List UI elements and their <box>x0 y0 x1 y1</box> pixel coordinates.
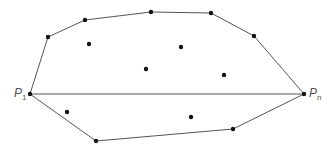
hull-vertex <box>94 139 98 143</box>
hull-vertex <box>28 92 32 96</box>
label-p1-text: P <box>14 86 22 100</box>
label-p1-sub: 1 <box>22 93 26 102</box>
label-p1: P1 <box>14 86 26 102</box>
hull-vertex <box>209 11 213 15</box>
hull-vertex <box>149 10 153 14</box>
upper-hull-line <box>30 12 304 94</box>
hull-vertex <box>83 18 87 22</box>
interior-point <box>179 45 183 49</box>
hull-vertex <box>46 35 50 39</box>
interior-point <box>144 67 148 71</box>
hull-vertex <box>231 127 235 131</box>
hull-vertex <box>252 34 256 38</box>
convex-hull-diagram <box>0 0 333 149</box>
interior-point <box>87 42 91 46</box>
interior-point <box>189 115 193 119</box>
hull-vertex <box>302 92 306 96</box>
label-pn-text: P <box>309 86 317 100</box>
interior-point <box>65 110 69 114</box>
lower-hull-line <box>30 94 304 141</box>
interior-point <box>222 73 226 77</box>
label-pn-sub: n <box>317 93 321 102</box>
label-pn: Pn <box>309 86 321 102</box>
